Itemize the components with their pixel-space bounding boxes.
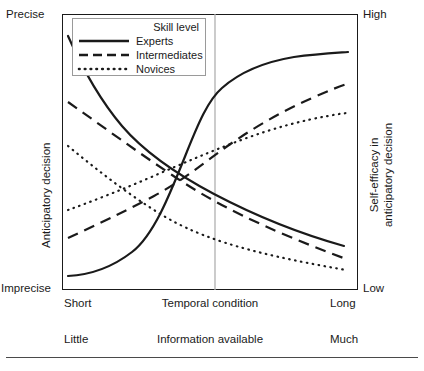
curve-intermediates-descending [68,102,346,259]
curve-intermediates-ascending [68,83,350,238]
x-axis-right-label: Long [330,297,356,309]
legend-item-experts: Experts [77,34,201,48]
left-axis-top-label: Precise [6,8,44,20]
legend: Skill level Experts Intermediates [72,18,206,76]
x-axis2-center-label: Information available [62,333,358,345]
dashed-line-icon [77,49,131,61]
x-axis2-left-label: Little [64,333,88,345]
legend-item-novices: Novices [77,62,201,76]
solid-line-icon [77,35,131,47]
x-axis2-right-label: Much [330,333,358,345]
legend-title: Skill level [77,21,201,34]
curve-novices-descending [68,146,346,270]
x-axis-left-label: Short [64,297,92,309]
legend-label-novices: Novices [136,63,175,76]
dotted-line-icon [77,63,131,75]
figure-root: Skill level Experts Intermediates [0,0,424,371]
left-axis-bottom-label: Imprecise [1,282,51,294]
legend-label-intermediates: Intermediates [136,49,203,62]
right-axis-title-line2: anticipatory decision [382,123,394,227]
legend-item-intermediates: Intermediates [77,48,201,62]
right-axis-title-line1: Self-efficacy in [368,138,380,213]
bottom-divider-rule [6,357,418,358]
legend-label-experts: Experts [136,35,173,48]
x-axis-center-label: Temporal condition [62,297,358,309]
curve-novices-ascending [68,113,350,210]
right-axis-title: Self-efficacy in anticipatory decision [366,60,396,290]
right-axis-top-label: High [363,8,387,20]
left-axis-title: Anticipatory decision [40,143,53,248]
